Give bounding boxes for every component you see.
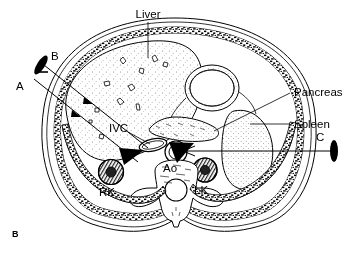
label-right-kidney: RK xyxy=(99,186,115,198)
label-plane-a: A xyxy=(16,80,24,92)
transducer-b xyxy=(32,54,50,77)
anatomy-figure: Liver Pancreas Spleen IVC Ao RK LK A B C… xyxy=(0,0,358,255)
label-liver: Liver xyxy=(136,8,161,20)
label-aorta: Ao xyxy=(163,162,177,174)
figure-panel-label: B xyxy=(12,229,19,239)
label-plane-b: B xyxy=(51,50,59,62)
label-ivc: IVC xyxy=(109,122,128,134)
label-spleen: Spleen xyxy=(294,118,330,130)
right-kidney xyxy=(99,160,124,185)
label-left-kidney: LK xyxy=(194,184,208,196)
cross-section-drawing: Liver Pancreas Spleen IVC Ao RK LK A B C… xyxy=(0,0,358,255)
label-pancreas: Pancreas xyxy=(294,86,343,98)
label-plane-c: C xyxy=(316,131,324,143)
